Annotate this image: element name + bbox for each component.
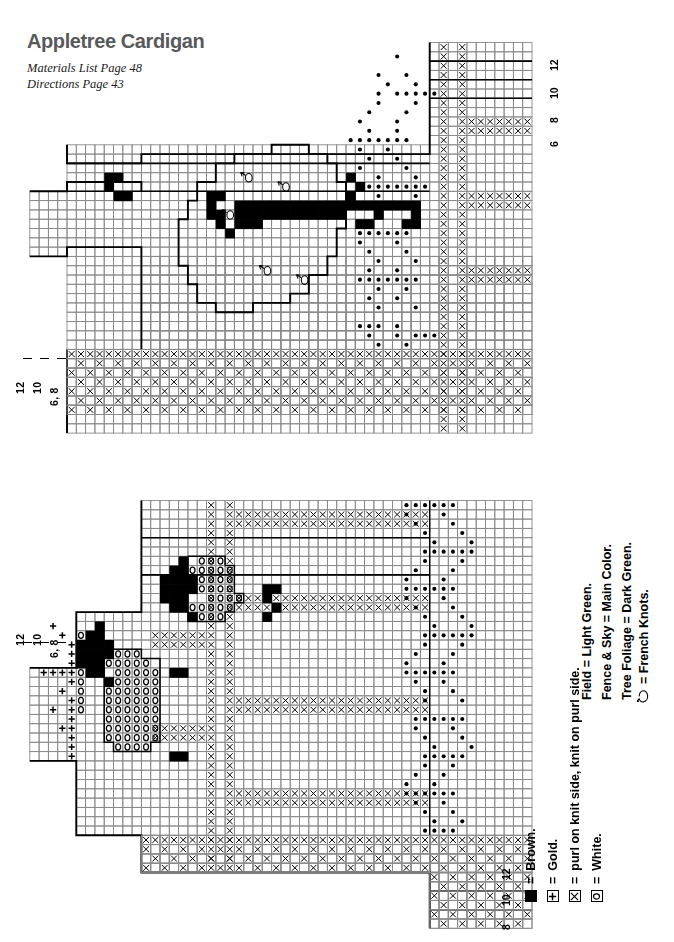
top-scale-6: 6 <box>548 141 560 147</box>
bottom-scale-12: 12 <box>500 868 512 880</box>
tick-dash-12 <box>23 358 32 359</box>
plus-box-icon <box>547 890 559 902</box>
tick-top-68: 6, 8 <box>48 387 60 406</box>
legend-french-knots-row: = French Knots. <box>636 589 654 704</box>
appletree-chart-top-canvas <box>20 42 560 482</box>
legend-row-brown: = Brown. <box>524 828 538 902</box>
legend-eq-white: = <box>590 877 604 884</box>
legend-eq-purl: = <box>568 877 582 884</box>
top-scale-8: 8 <box>548 117 560 123</box>
tick-bot-10: 10 <box>31 634 43 646</box>
legend-fence-sky: Fence & Sky = Main Color. <box>600 544 614 700</box>
legend-french-knots-label: = French Knots. <box>637 589 651 684</box>
legend-row-purl: = purl on knit side, knit on purl side. <box>568 667 582 902</box>
bottom-scale-10: 10 <box>500 894 512 906</box>
legend-eq-brown: = <box>524 877 538 884</box>
appletree-chart-top <box>20 42 560 482</box>
legend-label-purl: purl on knit side, knit on purl side. <box>568 667 582 871</box>
x-box-icon <box>569 890 581 902</box>
tick-dash-10 <box>40 358 49 359</box>
appletree-chart-bottom <box>20 500 560 940</box>
legend-label-white: White. <box>590 833 604 871</box>
filled-square-icon <box>525 890 537 902</box>
o-box-icon <box>591 890 603 902</box>
tick-bot-12: 12 <box>14 634 26 646</box>
legend-tree-foliage: Tree Foliage = Dark Green. <box>620 542 634 700</box>
legend-row-gold: = Gold. <box>546 839 560 902</box>
legend-label-gold: Gold. <box>546 839 560 871</box>
tick-top-10: 10 <box>31 382 43 394</box>
top-scale-12: 12 <box>548 59 560 71</box>
tick-top-12: 12 <box>14 382 26 394</box>
legend-label-brown: Brown. <box>524 828 538 870</box>
top-scale-10: 10 <box>548 87 560 99</box>
legend-field: Field = Light Green. <box>580 583 594 700</box>
tick-bot-dash-68 <box>57 642 66 643</box>
legend-eq-gold: = <box>546 877 560 884</box>
legend-row-white: = White. <box>590 833 604 902</box>
tick-dash-68 <box>57 358 66 359</box>
bottom-scale-8: 8 <box>500 924 512 930</box>
legend-bottom: = Brown. = Gold. = purl on knit side, kn… <box>536 700 674 942</box>
appletree-chart-bottom-canvas <box>20 500 560 940</box>
